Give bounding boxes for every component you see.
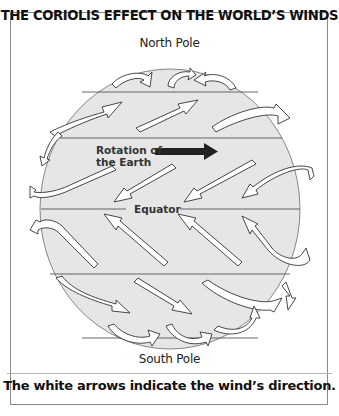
rotation-label-line2: the Earth bbox=[96, 156, 151, 168]
equator-label: Equator bbox=[134, 203, 181, 215]
diagram-title: THE CORIOLIS EFFECT ON THE WORLD’S WINDS bbox=[0, 8, 339, 23]
caption-divider bbox=[7, 373, 332, 374]
north-pole-label: North Pole bbox=[0, 36, 339, 50]
caption: The white arrows indicate the wind’s dir… bbox=[0, 378, 339, 393]
rotation-label-line1: Rotation of bbox=[96, 144, 163, 156]
south-pole-label: South Pole bbox=[0, 352, 339, 366]
